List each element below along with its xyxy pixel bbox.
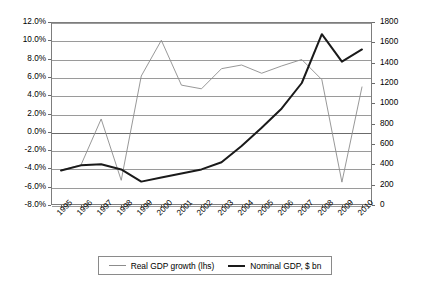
y-axis-right-tick <box>372 103 375 104</box>
y-axis-left-tick-label: 8.0% <box>0 54 46 63</box>
y-axis-left-tick-label: 6.0% <box>0 72 46 81</box>
series-line-nominal-gdp-bn <box>61 34 362 181</box>
y-axis-right-tick-label: 1600 <box>380 37 398 46</box>
y-axis-left-tick-label: 4.0% <box>0 90 46 99</box>
y-axis-right-tick-label: 400 <box>380 159 394 168</box>
y-axis-left-tick-label: -2.0% <box>0 145 46 154</box>
chart-legend: Real GDP growth (lhs) Nominal GDP, $ bn <box>98 256 332 275</box>
y-axis-right-tick-label: 0 <box>380 200 385 209</box>
y-axis-right-tick-label: 800 <box>380 119 394 128</box>
y-axis-right-tick-label: 200 <box>380 180 394 189</box>
series-layer <box>51 22 372 205</box>
y-axis-right-tick <box>372 22 375 23</box>
y-axis-left-tick <box>48 205 51 206</box>
y-axis-right-tick <box>372 83 375 84</box>
y-axis-right-tick-label: 1200 <box>380 78 398 87</box>
y-axis-left-tick-label: 0.0% <box>0 127 46 136</box>
legend-line-swatch-thick <box>228 265 245 267</box>
y-axis-left-tick-label: -8.0% <box>0 200 46 209</box>
y-axis-left-tick-label: -4.0% <box>0 163 46 172</box>
y-axis-left-tick-label: 12.0% <box>0 17 46 26</box>
legend-line-swatch-thin <box>109 265 126 266</box>
series-line-real-gdp-growth-lhs <box>61 40 362 182</box>
legend-item-nominal-gdp: Nominal GDP, $ bn <box>228 261 321 271</box>
y-axis-right-tick <box>372 124 375 125</box>
y-axis-right-tick <box>372 42 375 43</box>
y-axis-right-tick-label: 1400 <box>380 58 398 67</box>
y-axis-right-tick <box>372 63 375 64</box>
y-axis-right-tick-label: 600 <box>380 139 394 148</box>
y-axis-left-tick-label: 10.0% <box>0 35 46 44</box>
y-axis-right-tick <box>372 185 375 186</box>
chart-container: 12.0%10.0%8.0%6.0%4.0%2.0%0.0%-2.0%-4.0%… <box>0 0 428 289</box>
legend-label-nominal-gdp: Nominal GDP, $ bn <box>250 261 321 271</box>
y-axis-right-tick <box>372 164 375 165</box>
legend-item-real-gdp-growth: Real GDP growth (lhs) <box>109 261 215 271</box>
y-axis-left-tick-label: -6.0% <box>0 182 46 191</box>
y-axis-right-tick-label: 1000 <box>380 98 398 107</box>
legend-label-real-gdp-growth: Real GDP growth (lhs) <box>131 261 215 271</box>
y-axis-right-tick <box>372 144 375 145</box>
y-axis-left-tick-label: 2.0% <box>0 109 46 118</box>
y-axis-right-tick-label: 1800 <box>380 17 398 26</box>
